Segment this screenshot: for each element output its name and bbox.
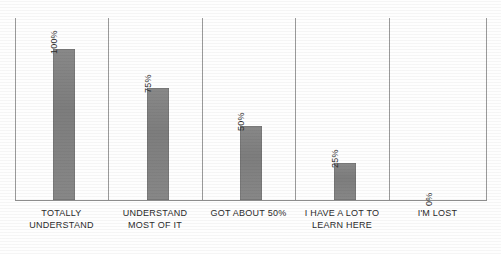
bar-value-label-0: 100% — [49, 30, 59, 54]
bar-totally-understand — [53, 49, 75, 200]
bar-value-label-4: 0% — [424, 193, 434, 206]
axis-divider-3 — [295, 18, 296, 201]
bar-chart: 100% 75% 50% 25% 0% TOTALLY UNDERSTAND U… — [0, 0, 501, 254]
bar-got-about-50 — [240, 126, 262, 200]
axis-divider-0 — [15, 18, 16, 201]
bar-value-label-3: 25% — [330, 149, 340, 168]
x-axis-baseline — [15, 200, 487, 201]
axis-divider-2 — [202, 18, 203, 201]
category-label-got-about-50: GOT ABOUT 50% — [202, 207, 295, 219]
axis-divider-5 — [486, 18, 487, 201]
bar-understand-most-of-it — [147, 88, 169, 200]
category-label-i-have-a-lot-to-learn-here: I HAVE A LOT TO LEARN HERE — [295, 207, 389, 231]
axis-divider-1 — [108, 18, 109, 201]
category-label-understand-most-of-it: UNDERSTAND MOST OF IT — [108, 207, 202, 231]
category-label-totally-understand: TOTALLY UNDERSTAND — [15, 207, 108, 231]
bar-i-have-a-lot-to-learn-here — [334, 163, 356, 200]
bar-value-label-1: 75% — [143, 74, 153, 93]
bar-value-label-2: 50% — [236, 112, 246, 131]
category-label-im-lost: I'M LOST — [389, 207, 486, 219]
axis-divider-4 — [389, 18, 390, 201]
